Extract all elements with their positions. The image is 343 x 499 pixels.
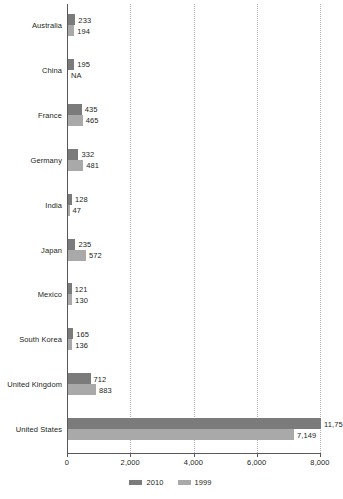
tick-mark: [257, 453, 258, 457]
category-label: United States: [16, 425, 62, 434]
category-label: Germany: [30, 155, 62, 164]
x-axis-tick-label: 6,000: [247, 458, 266, 467]
x-axis-tick-label: 2,000: [121, 458, 140, 467]
bar-value-label: 332: [81, 150, 94, 159]
bar-group: Germany332481: [67, 149, 320, 171]
bar-group: Australia233194: [67, 14, 320, 36]
bar-row: 332: [67, 149, 320, 160]
legend-label-2010: 2010: [146, 478, 163, 487]
bar-1999[interactable]: [68, 384, 96, 395]
category-label: France: [38, 110, 62, 119]
bar-row: 481: [67, 160, 320, 171]
bar-value-label: 47: [73, 206, 82, 215]
bar-value-label: NA: [71, 71, 82, 80]
legend-swatch-icon-1999: [178, 480, 191, 485]
category-label: Japan: [41, 245, 62, 254]
bar-group: United Kingdom712883: [67, 373, 320, 395]
bar-value-label: 235: [78, 240, 91, 249]
bar-2010[interactable]: [68, 283, 72, 294]
category-label: South Korea: [19, 335, 62, 344]
bar-group: United States11,757,149: [67, 418, 320, 440]
bar-group: France435465: [67, 104, 320, 126]
tick-mark: [67, 453, 68, 457]
bar-group: India12847: [67, 194, 320, 216]
bar-row: 47: [67, 205, 320, 216]
bar-1999[interactable]: [68, 160, 83, 171]
bar-value-label: 195: [77, 60, 90, 69]
bar-row: 130: [67, 294, 320, 305]
bar-row: 7,149: [67, 429, 320, 440]
bar-value-label: 435: [85, 105, 98, 114]
bar-row: 121: [67, 283, 320, 294]
bar-row: 233: [67, 14, 320, 25]
legend-item-2010: 2010: [129, 478, 163, 487]
category-label: Australia: [32, 21, 62, 30]
bar-value-label: 7,149: [297, 430, 316, 439]
tick-mark: [194, 453, 195, 457]
x-axis-tick-label: 4,000: [184, 458, 203, 467]
bar-value-label: 233: [78, 15, 91, 24]
tick-mark: [320, 453, 321, 457]
bar-row: 11,75: [67, 418, 320, 429]
bar-row: 128: [67, 194, 320, 205]
x-axis-tick-label: 0: [65, 458, 69, 467]
bar-2010[interactable]: [68, 104, 82, 115]
bar-value-label: 572: [89, 251, 102, 260]
x-axis-tick-label: 8,000: [310, 458, 329, 467]
bar-value-label: 883: [99, 385, 112, 394]
bar-2010[interactable]: [68, 59, 74, 70]
gridline: [320, 4, 321, 453]
legend-item-1999: 1999: [178, 478, 212, 487]
bar-1999[interactable]: [68, 429, 294, 440]
category-label: China: [42, 65, 62, 74]
bar-1999[interactable]: [68, 115, 83, 126]
bar-value-label: 11,75: [324, 419, 343, 428]
bar-row: 194: [67, 25, 320, 36]
bar-value-label: 712: [94, 374, 107, 383]
bar-1999[interactable]: [68, 339, 72, 350]
bar-1999[interactable]: [68, 205, 70, 216]
bar-row: 712: [67, 373, 320, 384]
bar-2010[interactable]: [68, 373, 91, 384]
bar-row: 572: [67, 250, 320, 261]
chart-legend: 2010 1999: [0, 478, 341, 487]
category-label: India: [45, 200, 62, 209]
bar-group: Mexico121130: [67, 283, 320, 305]
bar-1999[interactable]: [68, 25, 74, 36]
category-label: Mexico: [38, 290, 62, 299]
bar-value-label: 128: [75, 195, 88, 204]
bar-row: 883: [67, 384, 320, 395]
bar-1999[interactable]: [68, 294, 72, 305]
bar-2010[interactable]: [68, 149, 78, 160]
bar-value-label: 465: [86, 116, 99, 125]
bar-row: 136: [67, 339, 320, 350]
plot-area: Australia233194China195NAFrance435465Ger…: [67, 4, 320, 453]
category-label: United Kingdom: [7, 380, 62, 389]
bar-1999[interactable]: [68, 250, 86, 261]
bar-group: Japan235572: [67, 239, 320, 261]
bar-2010[interactable]: [68, 14, 75, 25]
bar-2010[interactable]: [68, 194, 72, 205]
bar-row: 435: [67, 104, 320, 115]
bar-row: 465: [67, 115, 320, 126]
bar-row: 165: [67, 328, 320, 339]
tick-mark: [130, 453, 131, 457]
bar-value-label: 130: [75, 295, 88, 304]
bar-2010[interactable]: [68, 328, 73, 339]
bar-row: NA: [67, 70, 320, 81]
bar-group: China195NA: [67, 59, 320, 81]
legend-swatch-icon-2010: [129, 480, 142, 485]
bar-value-label: 136: [75, 340, 88, 349]
bar-value-label: 165: [76, 329, 89, 338]
bar-2010[interactable]: [68, 418, 321, 429]
bar-2010[interactable]: [68, 239, 75, 250]
bar-row: 195: [67, 59, 320, 70]
legend-label-1999: 1999: [195, 478, 212, 487]
bar-value-label: 121: [75, 284, 88, 293]
bar-value-label: 481: [86, 161, 99, 170]
bar-group: South Korea165136: [67, 328, 320, 350]
bar-value-label: 194: [77, 26, 90, 35]
bar-row: 235: [67, 239, 320, 250]
